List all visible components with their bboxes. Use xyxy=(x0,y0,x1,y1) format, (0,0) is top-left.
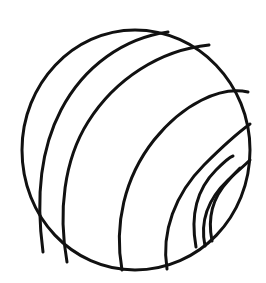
ball-outline xyxy=(22,30,250,270)
ball-line-drawing xyxy=(0,0,266,283)
artboard xyxy=(0,0,266,283)
